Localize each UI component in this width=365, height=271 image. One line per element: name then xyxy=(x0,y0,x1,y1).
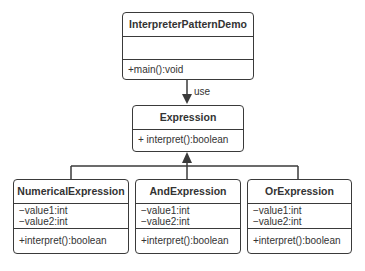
class-name: OrExpression xyxy=(248,180,351,203)
class-name: NumericalExpression xyxy=(14,180,128,203)
attribute: −value2:int xyxy=(136,216,240,227)
attribute: −value1:int xyxy=(14,205,128,216)
attribute: −value2:int xyxy=(248,216,351,227)
method: + interpret():boolean xyxy=(133,134,243,145)
class-name: InterpreterPatternDemo xyxy=(123,13,253,36)
attribute: −value2:int xyxy=(14,216,128,227)
method: +interpret():boolean xyxy=(14,235,128,246)
attribute: −value1:int xyxy=(136,205,240,216)
class-or-expression[interactable]: OrExpression −value1:int −value2:int +in… xyxy=(247,179,352,254)
class-and-expression[interactable]: AndExpression −value1:int −value2:int +i… xyxy=(135,179,241,254)
class-numerical-expression[interactable]: NumericalExpression −value1:int −value2:… xyxy=(13,179,129,254)
method: +interpret():boolean xyxy=(248,235,351,246)
class-expression[interactable]: Expression + interpret():boolean xyxy=(132,105,244,152)
method: +main():void xyxy=(123,64,253,75)
class-name: Expression xyxy=(133,106,243,129)
attributes-section xyxy=(123,36,253,60)
attribute: −value1:int xyxy=(248,205,351,216)
use-label: use xyxy=(194,86,210,97)
method: +interpret():boolean xyxy=(136,235,240,246)
class-interpreter-pattern-demo[interactable]: InterpreterPatternDemo +main():void xyxy=(122,12,254,80)
class-name: AndExpression xyxy=(136,180,240,203)
inheritance-arrowhead-icon xyxy=(182,152,192,163)
use-arrowhead-icon xyxy=(182,94,192,104)
